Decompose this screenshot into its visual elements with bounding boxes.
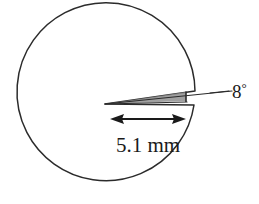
- dimension-label: 5.1 mm: [116, 133, 180, 157]
- degree-symbol: °: [242, 80, 247, 95]
- figure-container: 8° 5.1 mm: [0, 0, 259, 204]
- dimension-arrowhead-left: [110, 114, 124, 124]
- angle-label-value: 8: [232, 81, 242, 102]
- circle-wedge-diagram: 8° 5.1 mm: [0, 0, 259, 204]
- angle-label: 8°: [232, 80, 247, 102]
- dimension-arrowhead-right: [172, 114, 186, 124]
